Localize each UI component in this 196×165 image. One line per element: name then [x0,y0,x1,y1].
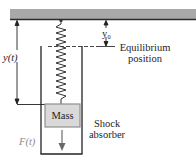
force-label: F(t) [19,136,35,147]
mass-label: Mass [45,110,80,121]
force-arrow-icon [59,130,66,151]
equilibrium-label-line2: position [117,53,173,64]
spring [56,21,66,104]
shock-absorber-line2: absorber [86,129,128,140]
shock-absorber-label: Shock absorber [86,118,128,140]
equilibrium-position-label: Equilibrium position [117,42,173,64]
shock-absorber-line1: Shock [86,118,128,129]
y0-label: y₀ [102,28,111,39]
displacement-label: y(t) [3,52,18,63]
equilibrium-label-line1: Equilibrium [117,42,173,53]
ceiling-support [10,9,196,19]
